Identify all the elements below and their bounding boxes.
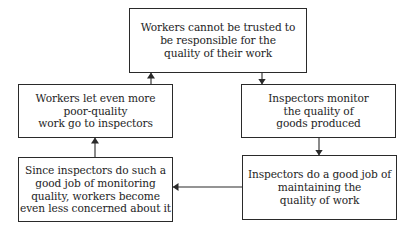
node-line: Since inspectors do such a	[20, 164, 171, 177]
node-inspectors-do-good-job: Inspectors do a good job of maintaining …	[242, 155, 397, 220]
node-line: work go to inspectors	[36, 117, 156, 130]
node-line: goods produced	[268, 117, 368, 130]
node-line: maintaining the	[248, 181, 391, 194]
node-workers-let-poor-quality: Workers let even more poor-quality work …	[18, 84, 173, 138]
node-line: be responsible for the	[141, 34, 296, 47]
node-line: Workers let even more	[36, 92, 156, 105]
node-workers-cannot-be-trusted: Workers cannot be trusted to be responsi…	[129, 8, 307, 73]
node-line: even less concerned about it	[20, 202, 171, 215]
node-line: Workers cannot be trusted to	[141, 21, 296, 34]
node-line: the quality of	[268, 105, 368, 118]
node-inspectors-monitor: Inspectors monitor the quality of goods …	[241, 84, 396, 138]
node-line: Inspectors do a good job of	[248, 168, 391, 181]
node-line: quality, workers become	[20, 190, 171, 203]
node-workers-less-concerned: Since inspectors do such a good job of m…	[18, 157, 173, 222]
node-line: quality of their work	[141, 47, 296, 60]
node-line: Inspectors monitor	[268, 92, 368, 105]
node-line: quality of work	[248, 194, 391, 207]
node-line: good job of monitoring	[20, 177, 171, 190]
node-line: poor-quality	[36, 105, 156, 118]
